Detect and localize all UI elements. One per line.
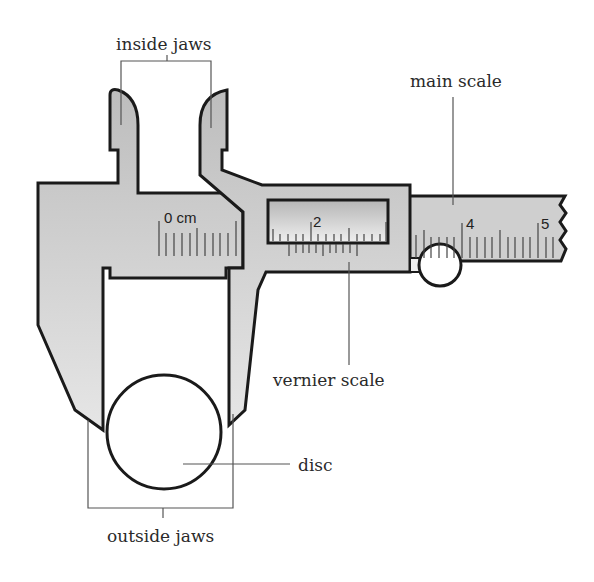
label-outside-jaws: outside jaws — [107, 528, 214, 545]
vernier-window — [268, 200, 388, 243]
disc-shape — [107, 375, 221, 489]
label-vernier-scale: vernier scale — [273, 372, 385, 389]
main-scale-label-5: 5 — [541, 216, 549, 231]
main-scale-label-4: 4 — [466, 216, 474, 231]
label-inside-jaws: inside jaws — [116, 36, 212, 53]
main-scale-label-2: 2 — [313, 214, 321, 229]
label-main-scale: main scale — [410, 73, 502, 90]
label-disc: disc — [298, 457, 333, 474]
main-scale-label-0cm: 0 cm — [164, 210, 197, 225]
vernier-caliper-diagram — [0, 0, 594, 582]
